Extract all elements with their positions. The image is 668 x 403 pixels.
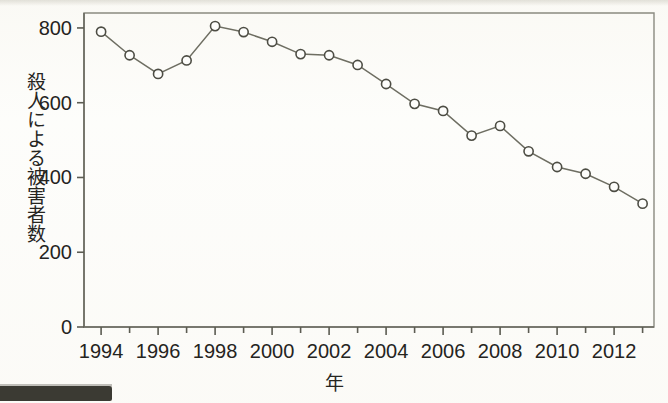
x-tick-label: 2000	[250, 340, 295, 362]
data-point-marker	[239, 27, 248, 36]
data-point-marker	[268, 37, 277, 46]
data-point-marker	[97, 27, 106, 36]
data-point-marker	[581, 169, 590, 178]
y-tick-label: 0	[61, 316, 72, 338]
scan-artifact-bar	[0, 386, 112, 401]
data-point-marker	[524, 147, 533, 156]
data-point-marker	[325, 51, 334, 60]
data-point-marker	[211, 21, 220, 30]
x-tick-label: 2010	[535, 340, 580, 362]
data-point-marker	[496, 121, 505, 130]
x-tick-label: 2012	[592, 340, 637, 362]
y-tick-label: 800	[39, 17, 72, 39]
data-point-marker	[353, 60, 362, 69]
y-tick-label: 400	[39, 166, 72, 188]
data-point-marker	[610, 182, 619, 191]
x-tick-label: 1994	[79, 340, 124, 362]
data-point-marker	[382, 79, 391, 88]
line-chart-plot: 0200400600800199419961998200020022004200…	[0, 0, 668, 403]
data-point-marker	[410, 99, 419, 108]
x-tick-label: 2006	[421, 340, 466, 362]
chart-figure: 殺人による被害者数 年 0200400600800199419961998200…	[0, 0, 668, 403]
y-tick-label: 200	[39, 241, 72, 263]
x-tick-label: 2008	[478, 340, 523, 362]
data-point-marker	[154, 69, 163, 78]
x-tick-label: 2004	[364, 340, 409, 362]
y-tick-label: 600	[39, 92, 72, 114]
data-point-marker	[638, 199, 647, 208]
data-point-marker	[125, 51, 134, 60]
data-point-marker	[439, 106, 448, 115]
x-tick-label: 1996	[136, 340, 181, 362]
data-point-marker	[467, 131, 476, 140]
data-point-marker	[553, 162, 562, 171]
x-tick-label: 2002	[307, 340, 352, 362]
data-point-marker	[182, 56, 191, 65]
x-tick-label: 1998	[193, 340, 238, 362]
data-point-marker	[296, 50, 305, 59]
data-series-line	[101, 26, 643, 204]
